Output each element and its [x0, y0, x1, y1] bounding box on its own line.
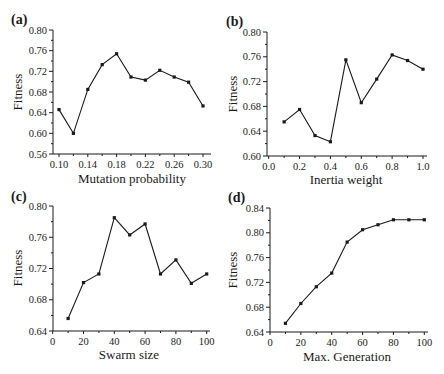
- y-tick-label: 0.76: [243, 51, 261, 62]
- y-tick-label: 0.72: [29, 66, 47, 77]
- panel-c: (c) Swarm size Fitness 0.640.680.720.760…: [10, 189, 215, 362]
- y-tick-label: 0.76: [29, 232, 47, 243]
- data-point-marker: [187, 81, 190, 84]
- x-tick-label: 100: [199, 336, 215, 347]
- y-tick-label: 0.68: [243, 101, 261, 112]
- figure-2x2-line-charts: (a) Mutation probability Fitness 0.560.6…: [0, 0, 444, 374]
- y-tick-label: 0.68: [29, 87, 47, 98]
- y-tick-label: 0.64: [29, 107, 48, 118]
- data-point-marker: [128, 233, 131, 236]
- x-tick-label: 0.22: [136, 159, 154, 170]
- series-line-c: [68, 218, 207, 319]
- data-point-marker: [158, 69, 161, 72]
- data-point-marker: [86, 88, 89, 91]
- x-tick-label: 0.0: [262, 161, 275, 172]
- x-tick-label: 60: [357, 337, 368, 348]
- series-line-b: [284, 55, 423, 142]
- x-tick-label: 0.14: [79, 159, 98, 170]
- x-tick-label: 60: [140, 336, 151, 347]
- y-axis-title-c: Fitness: [10, 250, 25, 287]
- data-point-marker: [144, 79, 147, 82]
- y-tick-label: 0.64: [29, 326, 48, 337]
- y-tick-label: 0.84: [246, 203, 265, 214]
- x-axis-title-c: Swarm size: [99, 347, 160, 362]
- data-point-marker: [392, 218, 395, 221]
- data-point-marker: [173, 75, 176, 78]
- data-point-marker: [344, 58, 347, 61]
- data-point-marker: [298, 108, 301, 111]
- x-axis-title-d: Max. Generation: [303, 349, 392, 364]
- data-point-marker: [299, 302, 302, 305]
- data-point-marker: [159, 272, 162, 275]
- x-tick-label: 0.8: [386, 161, 399, 172]
- y-tick-label: 0.76: [29, 45, 47, 56]
- x-tick-label: 0.2: [293, 161, 306, 172]
- data-point-marker: [284, 322, 287, 325]
- chart-canvas: (a) Mutation probability Fitness 0.560.6…: [0, 0, 444, 374]
- data-point-marker: [423, 218, 426, 221]
- y-axis-title-b: Fitness: [225, 76, 240, 113]
- x-tick-label: 0.10: [50, 159, 68, 170]
- data-point-marker: [329, 140, 332, 143]
- y-axis-title-a: Fitness: [10, 74, 25, 111]
- data-point-marker: [315, 285, 318, 288]
- x-tick-label: 80: [388, 337, 399, 348]
- data-point-marker: [205, 272, 208, 275]
- data-point-marker: [57, 108, 60, 111]
- series-line-a: [59, 54, 203, 134]
- data-point-marker: [190, 282, 193, 285]
- panel-label-d: (d): [228, 190, 245, 206]
- x-tick-label: 0.6: [355, 161, 368, 172]
- panel-label-b: (b): [226, 14, 243, 30]
- x-tick-label: 100: [416, 337, 432, 348]
- x-tick-label: 0.4: [324, 161, 338, 172]
- x-tick-label: 0: [267, 337, 272, 348]
- data-point-marker: [115, 52, 118, 55]
- y-tick-label: 0.60: [29, 128, 47, 139]
- x-tick-label: 20: [296, 337, 307, 348]
- panel-d: (d) Max. Generation Fitness 0.640.680.72…: [225, 190, 432, 364]
- data-point-marker: [391, 53, 394, 56]
- panel-a: (a) Mutation probability Fitness 0.560.6…: [10, 12, 212, 186]
- data-point-marker: [313, 134, 316, 137]
- data-point-marker: [67, 317, 70, 320]
- data-point-marker: [283, 120, 286, 123]
- y-tick-label: 0.56: [29, 149, 47, 160]
- panel-label-c: (c): [11, 189, 27, 205]
- x-axis-title-b: Inertia weight: [310, 172, 383, 187]
- data-point-marker: [72, 132, 75, 135]
- y-tick-label: 0.60: [243, 151, 261, 162]
- panel-b: (b) Inertia weight Fitness 0.600.640.680…: [225, 14, 430, 187]
- data-point-marker: [407, 218, 410, 221]
- x-tick-label: 20: [78, 336, 89, 347]
- data-point-marker: [174, 258, 177, 261]
- data-point-marker: [101, 63, 104, 66]
- data-point-marker: [201, 104, 204, 107]
- data-point-marker: [346, 241, 349, 244]
- y-tick-label: 0.72: [243, 76, 261, 87]
- y-axis-title-d: Fitness: [225, 252, 240, 289]
- data-point-marker: [406, 59, 409, 62]
- x-tick-label: 40: [326, 337, 337, 348]
- y-tick-label: 0.64: [246, 327, 265, 338]
- x-tick-label: 40: [109, 336, 120, 347]
- y-tick-label: 0.68: [246, 302, 264, 313]
- data-point-marker: [376, 223, 379, 226]
- x-tick-label: 0.18: [107, 159, 125, 170]
- data-point-marker: [360, 101, 363, 104]
- y-tick-label: 0.80: [243, 27, 261, 38]
- data-point-marker: [330, 272, 333, 275]
- series-line-d: [285, 220, 424, 323]
- y-tick-label: 0.72: [29, 263, 47, 274]
- y-tick-label: 0.68: [29, 294, 47, 305]
- data-point-marker: [421, 68, 424, 71]
- x-axis-title-a: Mutation probability: [78, 171, 186, 186]
- data-point-marker: [113, 216, 116, 219]
- data-point-marker: [375, 78, 378, 81]
- y-tick-label: 0.80: [29, 201, 47, 212]
- x-tick-label: 0.26: [165, 159, 183, 170]
- y-tick-label: 0.80: [246, 227, 264, 238]
- panel-label-a: (a): [11, 12, 28, 28]
- y-tick-label: 0.80: [29, 25, 47, 36]
- data-point-marker: [129, 75, 132, 78]
